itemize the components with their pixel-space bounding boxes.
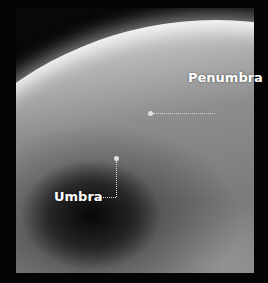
penumbra-label: Penumbra — [188, 70, 263, 85]
umbra-label: Umbra — [54, 189, 103, 204]
penumbra-leader-line — [153, 113, 215, 114]
eclipse-shadow-photo — [16, 8, 254, 273]
umbra-leader-line-vertical — [116, 161, 117, 197]
